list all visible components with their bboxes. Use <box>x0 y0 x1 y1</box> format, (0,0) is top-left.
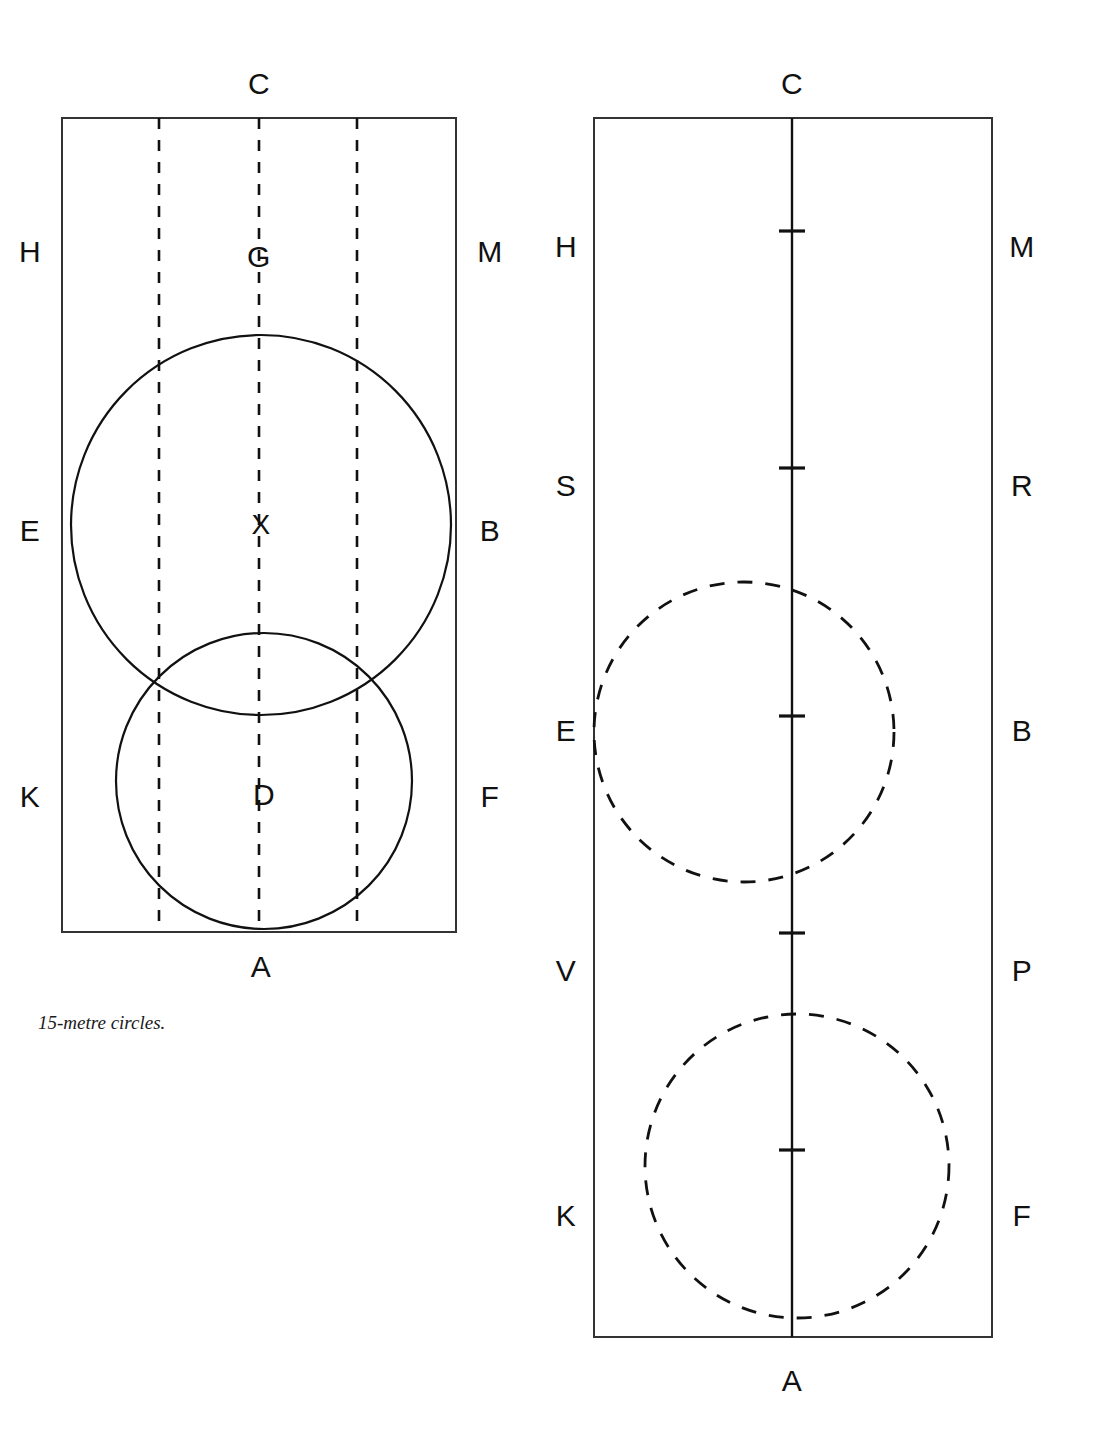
figure-caption: 15-metre circles. <box>38 1012 165 1034</box>
20-metre-circles-arena-marker-m-right: M <box>1009 232 1035 262</box>
15-metre-circles-arena-marker-x-inside: X <box>251 511 270 539</box>
20-metre-circles-arena-marker-f-right: F <box>1013 1201 1032 1231</box>
arena-diagrams-svg <box>0 0 1094 1433</box>
20-metre-circles-arena-marker-v-left: V <box>556 956 577 986</box>
20-metre-circles-arena-marker-c-top: C <box>781 69 803 99</box>
20-metre-circles-arena-marker-a-bottom: A <box>782 1366 803 1396</box>
20-metre-circles-arena-circle-upper <box>594 582 894 882</box>
20-metre-circles-arena-marker-k-left: K <box>556 1201 577 1231</box>
15-metre-circles-arena-marker-h-left: H <box>19 237 41 267</box>
15-metre-circles-arena-marker-g-inside: G <box>247 242 271 272</box>
20-metre-circles-arena-marker-p-right: P <box>1012 956 1033 986</box>
15-metre-circles-arena-marker-d-inside: D <box>253 780 275 810</box>
svg-root <box>62 118 992 1337</box>
15-metre-circles-arena-marker-a-bottom: A <box>251 952 272 982</box>
15-metre-circles-arena-marker-b-right: B <box>480 516 501 546</box>
15-metre-circles-arena-marker-e-left: E <box>20 516 41 546</box>
figure-page: CHGMEXBKDFACHMSREBVPKFA 15-metre circles… <box>0 0 1094 1433</box>
20-metre-circles-arena-circle-lower <box>645 1014 949 1318</box>
20-metre-circles-arena-marker-e-left: E <box>556 716 577 746</box>
20-metre-circles-arena-marker-h-left: H <box>555 232 577 262</box>
15-metre-circles-arena-marker-c-top: C <box>248 69 270 99</box>
15-metre-circles-arena-marker-f-right: F <box>481 782 500 812</box>
20-metre-circles-arena-marker-r-right: R <box>1011 471 1033 501</box>
15-metre-circles-arena-marker-k-left: K <box>20 782 41 812</box>
15-metre-circles-arena-marker-m-right: M <box>477 237 503 267</box>
20-metre-circles-arena-marker-s-left: S <box>556 471 577 501</box>
20-metre-circles-arena-marker-b-right: B <box>1012 716 1033 746</box>
